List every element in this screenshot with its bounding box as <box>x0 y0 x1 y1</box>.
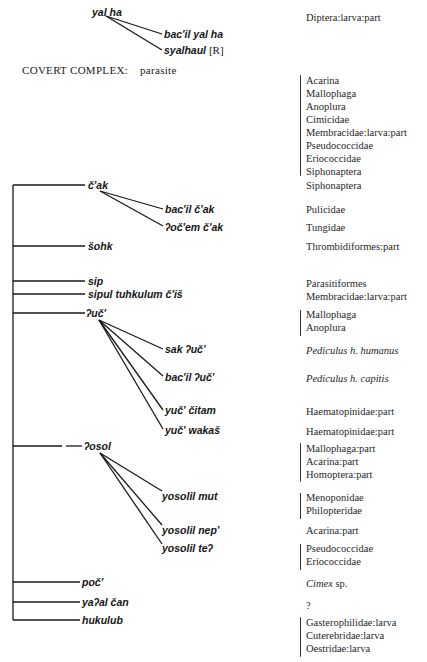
gloss-yal-ha: Diptera:larva:part <box>306 11 381 24</box>
gloss-item: Menoponidae <box>306 491 364 504</box>
brace <box>300 75 301 176</box>
covert-complex-label: COVERT COMPLEX: <box>22 64 128 76</box>
gloss-osol: Mallophaga:part Acarina:part Homoptera:p… <box>306 442 375 481</box>
gloss-item: Eriococcidae <box>306 555 373 568</box>
gloss-yuch-wakas: Haematopinidae:part <box>306 425 394 438</box>
term-sip: sip <box>88 275 103 287</box>
gloss-item: Membracidae:larva:part <box>306 126 407 139</box>
gloss-item: Cuterebridae:larva <box>306 629 396 642</box>
brace <box>300 493 301 519</box>
gloss-item: Pseudococcidae <box>306 139 407 152</box>
gloss-chak: Siphonaptera <box>306 179 361 192</box>
covert-complex-heading: COVERT COMPLEX:parasite <box>22 64 177 76</box>
gloss-item: Anoplura <box>306 100 407 113</box>
gloss-genus: Cimex <box>306 578 333 589</box>
gloss-item: Homoptera:part <box>306 468 375 481</box>
term-bacil-chak: bac'il č'ak <box>165 203 214 215</box>
term-bacil-uch: bac'il ʔuč' <box>165 371 214 383</box>
gloss-item: Acarina:part <box>306 455 375 468</box>
term-yal-ha: yal ha <box>92 6 122 18</box>
gloss-bacil-uch: Pediculus h. capitis <box>306 372 389 385</box>
term-yuch-wakas: yuč' wakaš <box>165 424 220 436</box>
gloss-poch: Cimex sp. <box>306 577 347 590</box>
gloss-yosolil-nep: Acarina:part <box>306 524 358 537</box>
gloss-sak-uch: Pediculus h. humanus <box>306 344 398 357</box>
gloss-hukulub: Gasterophilidae:larva Cuterebridae:larva… <box>306 616 396 655</box>
term-ochem-chak: ʔoč'em č'ak <box>165 221 223 233</box>
gloss-item: Acarina <box>306 74 407 87</box>
gloss-species: sp. <box>333 578 348 589</box>
gloss-sip: Parasitiformes <box>306 277 367 290</box>
gloss-uch: Mallophaga Anoplura <box>306 308 356 334</box>
term-poch: poč' <box>82 576 103 588</box>
term-yosolil-nep: yosolil nep' <box>162 524 219 536</box>
gloss-yosolil-te: Pseudococcidae Eriococcidae <box>306 542 373 568</box>
gloss-item: Mallophaga:part <box>306 442 375 455</box>
gloss-item: Mallophaga <box>306 308 356 321</box>
term-bacil-yal-ha: bac'il yal ha <box>164 28 223 40</box>
gloss-item: Pseudococcidae <box>306 542 373 555</box>
brace <box>300 443 301 482</box>
term-sipul-tuhkulum-chis: sipul tuhkulum č'iš <box>88 288 183 300</box>
term-hukulub: hukulub <box>82 614 123 626</box>
term-uch: ʔuč' <box>86 307 106 319</box>
gloss-bacil-chak: Pulicidae <box>306 203 345 216</box>
gloss-covert-complex: Acarina Mallophaga Anoplura Cimicidae Me… <box>306 74 407 178</box>
gloss-item: Eriococcidae <box>306 152 407 165</box>
term-text: syalhaul <box>164 44 206 56</box>
term-yaal-chan: yaʔal čan <box>82 596 129 608</box>
term-osol: ʔosol <box>84 440 111 452</box>
register-mark: [R] <box>209 44 224 56</box>
gloss-item: Gasterophilidae:larva <box>306 616 396 629</box>
term-sak-uch: sak ʔuč' <box>165 343 205 355</box>
gloss-yosolil-mut: Menoponidae Philopteridae <box>306 491 364 517</box>
gloss-yuch-chitam: Haematopinidae:part <box>306 405 394 418</box>
gloss-item: Mallophaga <box>306 87 407 100</box>
term-yosolil-te: yosolil teʔ <box>162 542 213 554</box>
term-sohk: šohk <box>88 240 113 252</box>
term-chak: č'ak <box>88 179 108 191</box>
brace <box>300 617 301 657</box>
gloss-item: Oestridae:larva <box>306 642 396 655</box>
gloss-item: Anoplura <box>306 321 356 334</box>
brace <box>300 544 301 570</box>
gloss-yaal-chan: ? <box>306 599 311 612</box>
covert-complex-value: parasite <box>140 64 177 76</box>
gloss-item: Philopteridae <box>306 504 364 517</box>
term-yosolil-mut: yosolil mut <box>162 490 217 502</box>
gloss-ochem-chak: Tungidae <box>306 221 345 234</box>
gloss-item: Siphonaptera <box>306 165 407 178</box>
gloss-sohk: Thrombidiformes:part <box>306 240 399 253</box>
term-syalhaul: syalhaul [R] <box>164 44 224 56</box>
gloss-item: Cimicidae <box>306 113 407 126</box>
gloss-sipul-tuhkulum-chis: Membracidae:larva:part <box>306 290 407 303</box>
term-text: bac'il yal ha <box>164 28 223 40</box>
brace <box>300 310 301 336</box>
term-yuch-chitam: yuč' čitam <box>165 404 216 416</box>
